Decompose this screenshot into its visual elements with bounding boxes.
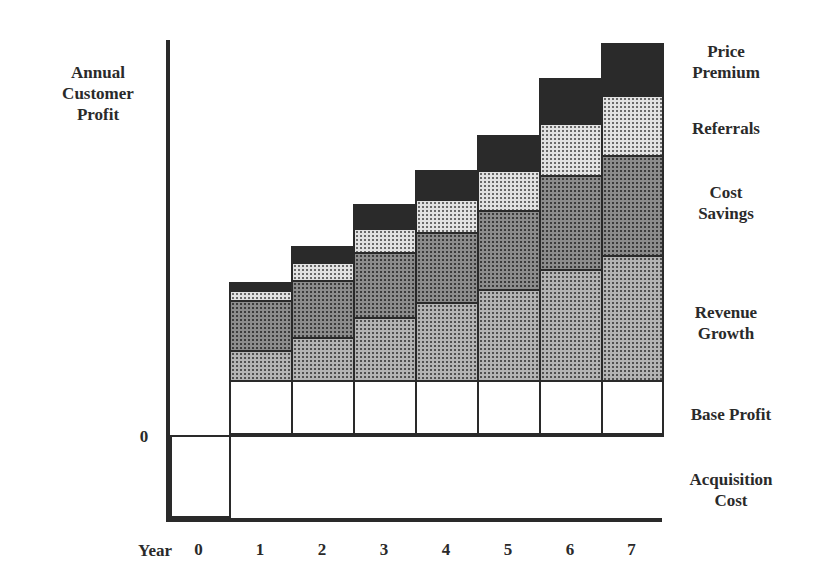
bar-segment-cost-savings [477, 210, 541, 291]
legend-price-premium-line-2: Premium [676, 62, 776, 83]
bar-segment-referrals [539, 123, 603, 177]
legend-revenue-growth-line-2: Growth [676, 323, 776, 344]
bar-segment-revenue-growth [415, 302, 479, 382]
x-axis-title: Year [130, 540, 180, 561]
legend-referrals: Referrals [676, 118, 776, 139]
legend-price-premium: Price Premium [676, 41, 776, 83]
bar-segment-referrals [353, 228, 417, 254]
legend-acquisition-cost: Acquisition Cost [676, 469, 786, 511]
bar-segment-base-profit [415, 380, 479, 437]
x-tick-label: 6 [555, 540, 585, 560]
bar-segment-base-profit [477, 380, 541, 437]
bar-segment-revenue-growth [291, 337, 355, 382]
bar-segment-base-profit [291, 380, 355, 437]
bar-segment-base-profit [601, 380, 664, 437]
bar-segment-referrals [477, 170, 541, 212]
y-axis-line [166, 40, 170, 522]
bar-segment-acquisition-cost [170, 435, 231, 518]
bar-segment-price-premium [353, 204, 417, 230]
x-axis-line [166, 518, 662, 522]
bar-segment-referrals [415, 199, 479, 234]
bar-segment-revenue-growth [353, 317, 417, 382]
bar-segment-cost-savings [229, 300, 293, 352]
x-tick-label: 3 [369, 540, 399, 560]
legend-acquisition-cost-line-2: Cost [676, 490, 786, 511]
legend-cost-savings-line-1: Cost [676, 182, 776, 203]
bar-segment-cost-savings [539, 175, 603, 271]
bar-segment-revenue-growth [229, 350, 293, 382]
bar-segment-price-premium [477, 135, 541, 172]
x-tick-label: 7 [617, 540, 647, 560]
x-tick-label: 5 [493, 540, 523, 560]
legend-revenue-growth-line-1: Revenue [676, 302, 776, 323]
bar-segment-revenue-growth [539, 269, 603, 382]
legend-revenue-growth: Revenue Growth [676, 302, 776, 344]
bar-segment-base-profit [229, 380, 293, 437]
legend-cost-savings-line-2: Savings [676, 203, 776, 224]
bar-segment-price-premium [415, 170, 479, 201]
x-tick-label: 0 [184, 540, 214, 560]
legend-base-profit: Base Profit [676, 404, 786, 425]
bar-segment-price-premium [291, 246, 355, 264]
x-tick-label: 2 [307, 540, 337, 560]
x-tick-label: 1 [245, 540, 275, 560]
bar-segment-price-premium [601, 43, 664, 97]
bar-segment-cost-savings [415, 232, 479, 304]
bar-segment-cost-savings [291, 280, 355, 339]
legend-cost-savings: Cost Savings [676, 182, 776, 224]
bar-segment-revenue-growth [477, 289, 541, 382]
zero-line [229, 433, 662, 435]
bar-segment-referrals [291, 262, 355, 282]
bar-segment-price-premium [229, 282, 293, 292]
bar-segment-base-profit [539, 380, 603, 437]
legend-price-premium-line-1: Price [676, 41, 776, 62]
legend-acquisition-cost-line-1: Acquisition [676, 469, 786, 490]
bar-segment-price-premium [539, 78, 603, 125]
bar-segment-revenue-growth [601, 255, 664, 382]
bar-segment-base-profit [353, 380, 417, 437]
bar-segment-referrals [601, 95, 664, 157]
bar-segment-cost-savings [353, 252, 417, 319]
bar-segment-cost-savings [601, 155, 664, 257]
x-tick-label: 4 [431, 540, 461, 560]
